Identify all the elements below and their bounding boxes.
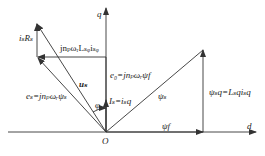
label-q: q <box>97 10 102 19</box>
label-psis: ψₛ <box>158 92 167 101</box>
psi-s-vector <box>106 50 203 132</box>
label-is: Iₛ=iₛq <box>109 97 131 106</box>
label-phi: φ <box>95 101 100 110</box>
label-isrs: iₛRₛ <box>19 34 33 43</box>
label-e0: e₀=jnₚωᵣψf <box>110 71 150 80</box>
label-psisq: ψₛq=Lₛqiₛq <box>209 88 251 97</box>
label-es: eₛ=jnₚωᵣψₛ <box>26 92 67 101</box>
label-origin: O <box>102 137 109 146</box>
us-vector <box>37 24 106 132</box>
label-psif: ψf <box>162 122 170 131</box>
label-d: d <box>247 122 252 131</box>
label-jlsq: jnₚωᵣLₛᵩiₛᵩ <box>60 44 99 53</box>
label-us: uₛ <box>79 80 88 89</box>
